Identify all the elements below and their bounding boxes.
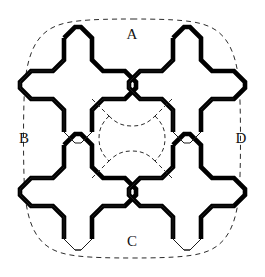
dashed-squircle-boundary xyxy=(24,19,241,258)
region-label-a: A xyxy=(127,26,138,42)
cross-top-right-body xyxy=(129,27,245,143)
cross-fills xyxy=(20,27,245,250)
void-connectors xyxy=(92,99,172,178)
region-label-c: C xyxy=(127,233,137,249)
central-octagon-void xyxy=(99,116,165,161)
diagonal-dashed-strands xyxy=(14,9,263,256)
region-label-b: B xyxy=(19,130,29,146)
cross-top-left-body xyxy=(20,27,136,143)
region-label-d: D xyxy=(236,130,247,146)
cross-bottom-left-body xyxy=(20,134,136,250)
cross-bottom-right-body xyxy=(129,134,245,250)
figure-root: A B C D xyxy=(0,0,265,277)
cross-lattice-figure: A B C D xyxy=(0,0,265,277)
